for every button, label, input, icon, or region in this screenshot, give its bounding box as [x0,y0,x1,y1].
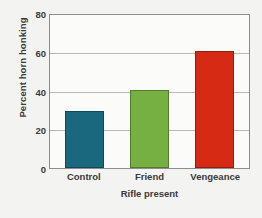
y-axis-tick-labels: 020406080 [22,14,46,169]
bar-vengeance[interactable] [195,51,234,168]
x-axis-title: Rifle present [49,188,250,199]
y-axis-tick-label: 20 [22,125,46,136]
bar-slot [117,15,182,168]
y-axis-tick-label: 60 [22,47,46,58]
y-axis-tick-label: 40 [22,86,46,97]
y-axis-tick-label: 0 [22,164,46,175]
bar-slot [182,15,247,168]
y-axis-tick-label: 80 [22,9,46,20]
bar-friend[interactable] [130,90,169,168]
bar-chart-figure: Percent horn honking 020406080 ControlFr… [0,0,262,218]
x-axis-tick-labels: ControlFriendVengeance [49,171,250,182]
plot-area [49,14,250,169]
bars-group [50,15,249,168]
x-axis-tick-label: Control [51,171,117,182]
bar-control[interactable] [65,111,104,168]
x-axis-tick-label: Vengeance [182,171,248,182]
bar-slot [52,15,117,168]
x-axis-tick-label: Friend [117,171,183,182]
